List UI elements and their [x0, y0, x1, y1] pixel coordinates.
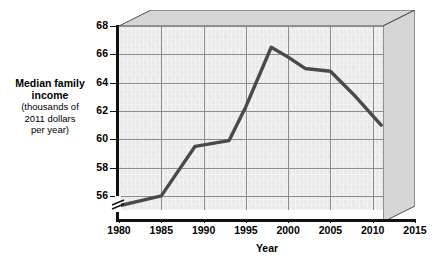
x-axis-tick	[330, 219, 331, 223]
y-axis-tick-label: 66	[80, 47, 108, 59]
y-axis-tick-label: 60	[80, 132, 108, 144]
x-axis-tick-label: 1990	[182, 224, 226, 236]
x-axis-tick-label: 2015	[393, 224, 437, 236]
x-axis-tick-label: 1980	[97, 224, 141, 236]
y-axis-tick	[110, 54, 117, 55]
x-axis-tick	[161, 219, 162, 223]
y-axis-tick-label: 68	[80, 19, 108, 31]
x-axis-tick	[288, 219, 289, 223]
x-axis-tick	[119, 219, 120, 223]
y-axis-tick	[110, 168, 117, 169]
x-axis-tick-label: 1985	[139, 224, 183, 236]
axis-break-icon	[110, 196, 126, 212]
y-axis-tick	[110, 83, 117, 84]
x-axis-tick	[246, 219, 247, 223]
x-axis-tick	[415, 219, 416, 223]
y-axis-tick-label: 62	[80, 104, 108, 116]
y-axis-tick-label: 56	[80, 189, 108, 201]
y-axis-tick	[110, 139, 117, 140]
x-axis-tick-label: 2005	[308, 224, 352, 236]
x-axis-tick-label: 2010	[351, 224, 395, 236]
y-axis-tick-label: 64	[80, 76, 108, 88]
data-series-line	[119, 26, 383, 210]
plot-area	[119, 26, 383, 210]
y-axis-tick	[110, 111, 117, 112]
x-axis-tick-label: 2000	[266, 224, 310, 236]
x-axis-tick	[204, 219, 205, 223]
y-axis-tick-label: 58	[80, 161, 108, 173]
y-axis-tick	[110, 26, 117, 27]
x-axis-tick-label: 1995	[224, 224, 268, 236]
chart-bevel-right	[383, 10, 415, 222]
x-axis-tick	[373, 219, 374, 223]
chart-container: Median family income (thousands of 2011 …	[0, 0, 445, 268]
x-axis-title: Year	[119, 242, 415, 254]
chart-bevel-top	[119, 10, 415, 26]
